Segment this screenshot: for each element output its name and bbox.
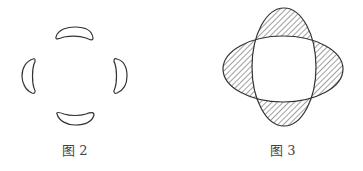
figure-3-caption: 图 3 [270, 140, 295, 159]
figure-3: 图 3 [0, 0, 363, 171]
overlapping-ellipses-diagram [0, 0, 363, 140]
